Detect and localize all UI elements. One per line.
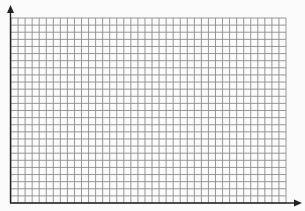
graph-paper bbox=[0, 0, 305, 211]
background bbox=[0, 0, 305, 211]
